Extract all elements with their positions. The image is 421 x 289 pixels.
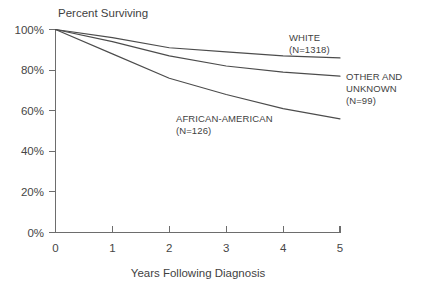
y-tick-label-80: 80% — [21, 64, 44, 76]
y-tick-label-60: 60% — [21, 105, 44, 117]
x-tick-label-2: 2 — [166, 242, 172, 254]
x-tick-label-3: 3 — [223, 242, 229, 254]
series-label-white-line1: WHITE — [289, 32, 320, 43]
x-axis-title: Years Following Diagnosis — [131, 267, 266, 279]
series-label-other-line3: (N=99) — [346, 95, 376, 106]
series-label-african-line1: AFRICAN-AMERICAN — [176, 113, 273, 124]
chart-canvas: Percent Surviving 100% 80% 60% 40% 20% 0… — [0, 0, 421, 289]
x-tick-label-0: 0 — [52, 242, 58, 254]
series-label-african-line2: (N=126) — [176, 125, 211, 136]
y-tick-label-0: 0% — [27, 227, 44, 239]
x-tick-label-1: 1 — [109, 242, 115, 254]
y-tick-label-40: 40% — [21, 145, 44, 157]
y-axis-title: Percent Surviving — [58, 7, 148, 19]
series-label-other-line2: UNKNOWN — [346, 83, 397, 94]
series-label-white-line2: (N=1318) — [289, 44, 330, 55]
y-tick-label-100: 100% — [15, 24, 44, 36]
survival-chart-figure: Percent Surviving 100% 80% 60% 40% 20% 0… — [0, 0, 421, 289]
series-label-other-line1: OTHER AND — [346, 71, 402, 82]
x-tick-label-4: 4 — [280, 242, 287, 254]
y-tick-label-20: 20% — [21, 186, 44, 198]
x-tick-label-5: 5 — [337, 242, 343, 254]
